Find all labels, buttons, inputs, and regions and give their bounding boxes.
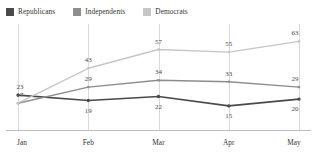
value-label-democrats-feb: 43 xyxy=(85,56,92,64)
value-label-republicans-apr: 15 xyxy=(225,112,232,120)
value-label-democrats-mar: 57 xyxy=(155,38,162,46)
data-point-democrats-mar xyxy=(157,48,160,51)
data-point-independents-apr xyxy=(228,80,231,83)
value-label-independents-jan: 17 xyxy=(16,91,23,99)
legend-label-republicans: Republicans xyxy=(18,8,55,16)
value-label-democrats-may: 63 xyxy=(291,29,298,37)
series-line-independents xyxy=(18,80,299,103)
data-point-republicans-mar xyxy=(157,95,160,98)
value-label-republicans-mar: 22 xyxy=(155,103,162,111)
legend-label-independents: Independents xyxy=(85,8,125,16)
value-label-independents-apr: 33 xyxy=(225,70,232,78)
x-tick-jan: Jan xyxy=(17,138,27,147)
plot-area: 2319221520172934332943575563 xyxy=(0,22,317,136)
x-tick-apr: Apr xyxy=(223,138,235,147)
data-point-democrats-apr xyxy=(228,51,231,54)
value-label-democrats-apr: 55 xyxy=(225,40,232,48)
data-point-democrats-feb xyxy=(87,67,90,70)
x-axis: JanFebMarAprMay xyxy=(0,136,317,156)
data-point-independents-may xyxy=(298,86,301,89)
value-label-republicans-may: 20 xyxy=(291,105,298,113)
line-chart: Republicans Independents Democrats 23192… xyxy=(0,0,317,159)
legend-label-democrats: Democrats xyxy=(155,8,188,16)
value-label-republicans-jan: 23 xyxy=(16,83,23,91)
legend-item-independents[interactable]: Independents xyxy=(73,8,125,16)
x-tick-may: May xyxy=(287,138,301,147)
legend-item-democrats[interactable]: Democrats xyxy=(143,8,188,16)
data-point-independents-feb xyxy=(87,86,90,89)
legend-swatch-democrats xyxy=(143,8,151,16)
data-point-democrats-may xyxy=(298,40,301,43)
legend-item-republicans[interactable]: Republicans xyxy=(6,8,55,16)
legend-swatch-independents xyxy=(73,8,81,16)
data-point-republicans-feb xyxy=(87,99,90,102)
x-tick-feb: Feb xyxy=(83,138,94,147)
legend-swatch-republicans xyxy=(6,8,14,16)
value-label-independents-feb: 29 xyxy=(85,75,92,83)
data-point-republicans-apr xyxy=(227,104,230,107)
chart-legend: Republicans Independents Democrats xyxy=(6,6,311,18)
value-label-independents-mar: 34 xyxy=(155,68,162,76)
value-label-republicans-feb: 19 xyxy=(85,107,92,115)
x-tick-mar: Mar xyxy=(152,138,164,147)
data-point-democrats-jan xyxy=(17,102,20,105)
value-label-independents-may: 29 xyxy=(291,75,298,83)
data-point-republicans-may xyxy=(297,97,300,100)
data-point-independents-mar xyxy=(157,79,160,82)
